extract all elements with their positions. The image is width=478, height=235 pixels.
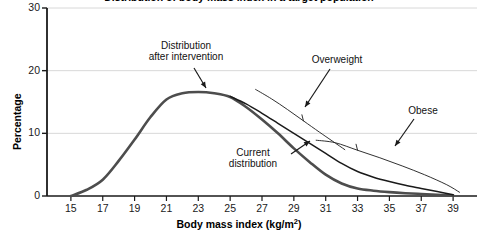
annotation-obese: Obese: [408, 105, 437, 116]
x-tick-label: 33: [352, 203, 364, 215]
annotation-line: Distribution: [149, 40, 224, 51]
x-tick-label: 37: [415, 203, 427, 215]
obese-bracket: [316, 140, 459, 192]
x-tick-label: 21: [161, 203, 173, 215]
x-tick-label: 15: [65, 203, 77, 215]
x-tick-label: 29: [288, 203, 300, 215]
x-tick-label: 39: [447, 203, 459, 215]
annotation-arrows: [194, 68, 414, 154]
annotation-line: Obese: [408, 105, 437, 116]
x-tick-label: 19: [129, 203, 141, 215]
overweight-bracket: [256, 89, 345, 149]
x-axis-title: Body mass index (kg/m2): [177, 217, 302, 230]
annotation-line: distribution: [229, 158, 277, 169]
annotation-current-distribution: Currentdistribution: [229, 147, 277, 169]
x-tick-label: 23: [192, 203, 204, 215]
x-tick-label: 27: [256, 203, 268, 215]
bmi-distribution-chart: Distribution of body mass index in a tar…: [0, 0, 478, 235]
annotation-line: Current: [229, 147, 277, 158]
annotation-line: after intervention: [149, 51, 224, 62]
x-tick-label: 25: [224, 203, 236, 215]
y-tick-label: 0: [16, 190, 40, 202]
annotation-distribution-after-intervention: Distributionafter intervention: [149, 40, 224, 62]
x-tick-label: 31: [320, 203, 332, 215]
overweight-arrow: [305, 69, 330, 107]
y-axis-title: Percentage: [12, 93, 24, 150]
annotation-overweight: Overweight: [312, 54, 363, 65]
overweight-arrow-head: [305, 101, 310, 107]
y-tick-label: 30: [16, 2, 40, 14]
x-tick-label: 35: [384, 203, 396, 215]
obese-arrow-head: [395, 140, 401, 146]
x-tick-label: 17: [97, 203, 109, 215]
superscript-two: 2: [294, 216, 298, 225]
plot-area: [0, 0, 478, 235]
annotation-line: Overweight: [312, 54, 363, 65]
y-tick-label: 20: [16, 65, 40, 77]
